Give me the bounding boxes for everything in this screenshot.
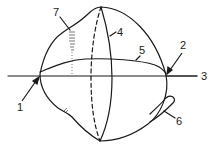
label-4: 4 <box>117 26 123 38</box>
solid-meridian <box>100 7 112 141</box>
small-hatch-mark <box>63 108 68 113</box>
label-3: 3 <box>201 70 207 82</box>
dashed-meridian <box>91 7 101 141</box>
leader-5 <box>136 56 140 60</box>
label-7: 7 <box>53 6 59 18</box>
left-pole-arrow <box>22 81 36 101</box>
hatched-region <box>69 32 75 75</box>
sphere-diagram: 1 2 3 4 5 6 7 <box>0 0 215 146</box>
equator-curve <box>40 59 166 74</box>
label-5: 5 <box>139 44 145 56</box>
right-pole-arrow <box>170 53 182 70</box>
leader-4 <box>110 32 116 36</box>
label-2: 2 <box>180 39 186 51</box>
label-1: 1 <box>17 101 23 113</box>
left-arrowhead-icon <box>33 77 39 84</box>
label-6: 6 <box>176 115 182 127</box>
sphere-outline <box>40 7 167 141</box>
leader-7 <box>60 17 70 30</box>
leader-6 <box>164 111 175 118</box>
